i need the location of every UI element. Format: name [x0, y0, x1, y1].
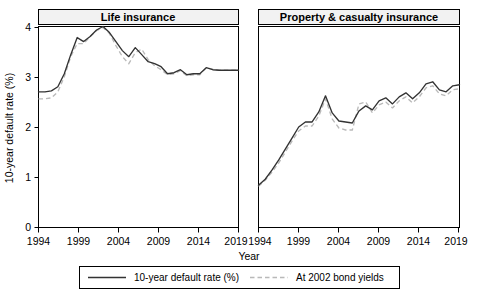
x-tick-label-right-2014: 2014 [407, 235, 431, 247]
y-tick-label-2: 2 [25, 121, 31, 133]
panel-life-insurance: Life insurance 0 1 2 3 4 1994 1999 20 [25, 10, 248, 248]
y-tick-label-1: 1 [25, 171, 31, 183]
x-axis-ticks-left: 1994 1999 2004 2009 2014 2019 [27, 228, 248, 248]
y-axis-ticks-left: 0 1 2 3 4 [25, 21, 38, 233]
x-tick-label-right-1999: 1999 [287, 235, 311, 247]
panel-title-left: Life insurance [101, 11, 176, 23]
y-tick-label-3: 3 [25, 71, 31, 83]
series-line-default-rate-left [39, 27, 239, 92]
legend: 10-year default rate (%) At 2002 bond yi… [80, 267, 400, 289]
chart-svg: 10-year default rate (%) Life insurance … [0, 0, 478, 298]
y-tick-label-0: 0 [25, 221, 31, 233]
plot-frame-right [259, 27, 460, 228]
x-axis-ticks-right: 1994 1999 2004 2009 2014 2019 [248, 228, 468, 248]
x-tick-label-left-1999: 1999 [67, 235, 91, 247]
legend-label-at-2002-bond-yields: At 2002 bond yields [296, 272, 384, 283]
x-axis-title: Year [238, 250, 260, 262]
x-tick-label-left-2014: 2014 [187, 235, 211, 247]
figure-container: 10-year default rate (%) Life insurance … [0, 0, 478, 298]
x-tick-label-left-1994: 1994 [27, 235, 51, 247]
plot-frame-left [39, 27, 239, 228]
legend-label-default-rate: 10-year default rate (%) [134, 272, 239, 283]
panel-property-casualty-insurance: Property & casualty insurance 1994 1999 … [248, 10, 468, 248]
x-tick-label-left-2019: 2019 [224, 235, 248, 247]
series-line-at-2002-bond-yields-right [259, 86, 460, 187]
x-tick-label-right-1994: 1994 [248, 235, 272, 247]
x-tick-label-left-2004: 2004 [107, 235, 131, 247]
panel-title-right: Property & casualty insurance [280, 11, 438, 23]
y-axis-title: 10-year default rate (%) [3, 73, 15, 183]
x-tick-label-right-2019: 2019 [444, 235, 468, 247]
y-tick-label-4: 4 [25, 21, 31, 33]
series-line-default-rate-right [259, 82, 460, 186]
x-tick-label-right-2004: 2004 [327, 235, 351, 247]
x-tick-label-left-2009: 2009 [147, 235, 171, 247]
x-tick-label-right-2009: 2009 [367, 235, 391, 247]
